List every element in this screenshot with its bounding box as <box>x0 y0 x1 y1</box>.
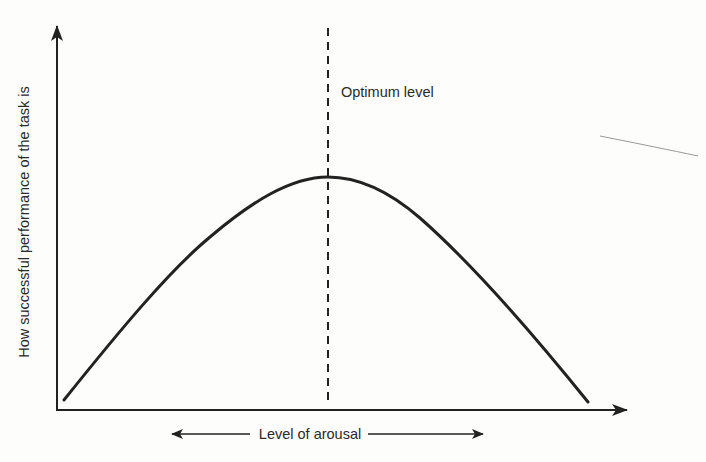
x-axis-label-group: Level of arousal <box>172 426 483 442</box>
optimum-level-label: Optimum level <box>341 84 434 100</box>
y-axis-label: How successful performance of the task i… <box>16 86 32 358</box>
yerkes-dodson-diagram: How successful performance of the task i… <box>0 0 706 462</box>
stray-mark <box>600 136 698 156</box>
x-axis-label: Level of arousal <box>259 426 361 442</box>
performance-curve <box>64 177 588 402</box>
